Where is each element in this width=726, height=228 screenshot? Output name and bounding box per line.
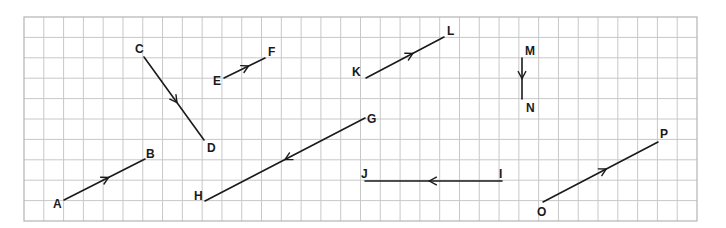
point-label-m: M xyxy=(525,44,535,58)
point-label-n: N xyxy=(526,101,535,115)
vector-segment xyxy=(543,142,658,202)
point-label-i: I xyxy=(499,167,502,181)
vector-mn: MN xyxy=(518,44,535,115)
point-label-a: A xyxy=(53,197,62,211)
point-label-h: H xyxy=(194,189,203,203)
vector-gh: GH xyxy=(194,112,376,203)
point-label-g: G xyxy=(367,112,376,126)
point-label-c: C xyxy=(135,42,144,56)
vector-segment xyxy=(224,58,265,78)
vector-ab: AB xyxy=(53,147,155,211)
point-label-j: J xyxy=(361,167,368,181)
vector-segment xyxy=(64,159,145,200)
grid-paper xyxy=(24,17,697,221)
vector-kl: KL xyxy=(352,24,454,79)
vector-op: OP xyxy=(537,127,668,219)
point-label-f: F xyxy=(268,45,275,59)
point-label-e: E xyxy=(213,74,221,88)
vector-ij: IJ xyxy=(361,167,502,185)
point-label-o: O xyxy=(537,205,546,219)
point-label-d: D xyxy=(207,141,216,155)
vector-grid-diagram: ABCDEFGHIJKLMNOP xyxy=(0,0,726,228)
point-label-p: P xyxy=(660,127,668,141)
point-label-l: L xyxy=(447,24,454,38)
point-label-b: B xyxy=(146,147,155,161)
point-label-k: K xyxy=(352,65,361,79)
